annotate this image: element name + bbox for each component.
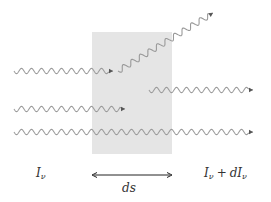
ds-double-arrow [92,173,172,178]
arrowhead-icon [208,13,213,17]
arrowhead-icon [249,130,253,134]
radiative-transfer-diagram: Iν ds Iν+dIν [0,0,271,202]
outgoing-intensity-label: Iν+dIν [204,167,247,181]
incident-intensity-label: Iν [36,167,46,181]
path-length-label: ds [122,182,136,194]
arrowhead-icon [249,88,253,92]
absorbing-slab [92,32,172,154]
